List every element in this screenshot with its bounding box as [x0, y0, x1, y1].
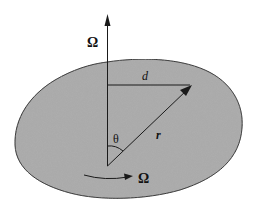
rotating-body-diagram: Ω d r θ Ω: [0, 0, 256, 210]
angle-label: θ: [113, 132, 119, 146]
rotation-axis-arrowhead-icon: [105, 14, 111, 26]
radius-label: r: [156, 128, 161, 142]
rotation-omega-label: Ω: [138, 171, 149, 186]
distance-label: d: [142, 69, 149, 83]
axis-omega-label: Ω: [87, 35, 98, 50]
